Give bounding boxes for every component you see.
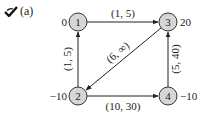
node-2: 2 −10 [50,87,87,105]
node-1-label: 1 [75,16,81,28]
node-4: 4 −10 [159,87,198,105]
edge-label-2-4: (10, 30) [106,100,141,113]
node-1: 1 0 [62,13,88,31]
node-4-label: 4 [165,90,171,102]
edge-label-2-1: (1, 5) [61,47,74,71]
node-4-supply: −10 [180,90,198,102]
node-1-supply: 0 [62,16,68,28]
node-3: 3 20 [159,13,192,31]
edge-3-2 [86,28,161,90]
node-3-label: 3 [165,16,171,28]
network-flow-graph: (1, 5) (1, 5) (6, ∞) (10, 30) (5, 40) 1 … [0,0,200,113]
edge-label-3-2: (6, ∞) [104,39,133,66]
edges [78,22,168,96]
node-2-supply: −10 [50,90,68,102]
edge-label-4-3: (5, 40) [169,44,182,74]
node-3-supply: 20 [180,16,192,28]
node-2-label: 2 [75,90,81,102]
edge-label-1-3: (1, 5) [111,7,135,20]
